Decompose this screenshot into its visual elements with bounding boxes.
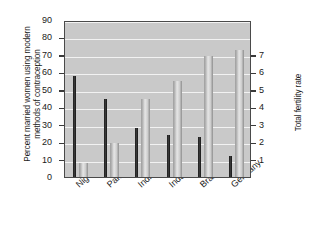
bar-contraception-indonesia (173, 81, 182, 177)
gridline (65, 57, 250, 58)
gridline (65, 109, 250, 110)
gridline (65, 39, 250, 40)
bar-contraception-germany (235, 50, 244, 177)
right-tick-label: 3 (259, 120, 275, 130)
bar-contraception-pakistan (110, 143, 119, 177)
bar-contraception-nigeria (79, 163, 88, 177)
left-tick-label: 70 (12, 50, 52, 60)
bar-fertility-india (135, 128, 138, 177)
right-axis-title: Total fertility rate (294, 43, 303, 163)
left-tick-label: 0 (12, 172, 52, 182)
gridline (65, 22, 250, 23)
bar-contraception-brazil (204, 56, 213, 177)
left-tick-label: 10 (12, 155, 52, 165)
left-tick-label: 40 (12, 102, 52, 112)
right-tick-mark (251, 55, 256, 56)
bar-fertility-indonesia (167, 135, 170, 177)
fertility-contraception-chart: Percent married women using modern metho… (0, 0, 320, 234)
left-tick-label: 60 (12, 67, 52, 77)
bar-fertility-nigeria (73, 76, 76, 177)
right-tick-label: 7 (259, 50, 275, 60)
right-tick-mark (251, 73, 256, 74)
left-tick-label: 20 (12, 137, 52, 147)
right-tick-label: 2 (259, 137, 275, 147)
gridline (65, 92, 250, 93)
left-tick-label: 80 (12, 32, 52, 42)
bar-fertility-pakistan (104, 99, 107, 178)
right-tick-label: 5 (259, 85, 275, 95)
bar-fertility-germany (229, 156, 232, 177)
right-tick-mark (251, 125, 256, 126)
right-tick-mark (251, 90, 256, 91)
right-tick-mark (251, 108, 256, 109)
gridline (65, 144, 250, 145)
plot-area (64, 21, 251, 178)
left-tick-label: 30 (12, 120, 52, 130)
gridline (65, 162, 250, 163)
right-tick-label: 6 (259, 67, 275, 77)
right-tick-label: 4 (259, 102, 275, 112)
left-tick-label: 90 (12, 15, 52, 25)
bar-contraception-india (141, 99, 150, 178)
right-tick-mark (251, 143, 256, 144)
gridline (65, 74, 250, 75)
left-tick-label: 50 (12, 85, 52, 95)
gridline (65, 127, 250, 128)
bar-fertility-brazil (198, 137, 201, 177)
